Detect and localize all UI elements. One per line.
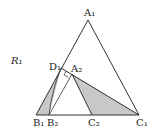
label-b1: B₁: [33, 118, 44, 128]
label-a2: A₂: [71, 64, 82, 74]
label-a1: A₁: [84, 8, 95, 18]
label-d1: D₁: [49, 62, 61, 72]
geometry-diagram: A₁ R₁ D₁ A₂ B₁ B₂ C₂ C₁: [0, 0, 156, 139]
label-c1: C₁: [136, 118, 148, 128]
label-b2: B₂: [47, 118, 58, 128]
label-r1: R₁: [11, 56, 23, 66]
label-c2: C₂: [88, 118, 100, 128]
